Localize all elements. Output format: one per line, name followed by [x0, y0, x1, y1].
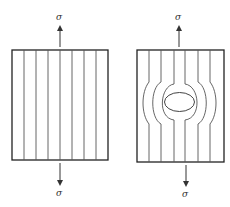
- left-top-sigma-label: σ: [56, 12, 63, 22]
- left-panel: σ σ: [12, 12, 108, 198]
- right-panel: σ σ: [137, 12, 224, 199]
- left-stress-lines: [24, 50, 96, 160]
- left-bottom-sigma-label: σ: [56, 188, 63, 198]
- stress-diagram: σ σ σ: [0, 0, 230, 207]
- elliptical-hole: [165, 93, 195, 112]
- right-bottom-sigma-label: σ: [182, 189, 189, 199]
- right-top-sigma-label: σ: [175, 12, 182, 22]
